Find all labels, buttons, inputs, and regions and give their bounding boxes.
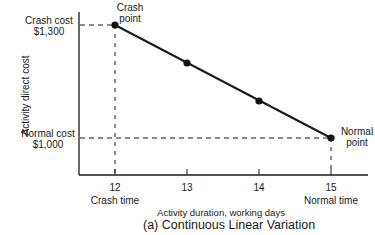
y-axis-label: Activity direct cost [20, 46, 31, 146]
normal-point-label: Normal point [340, 126, 374, 148]
normal-point-label-line2: point [340, 137, 374, 148]
crash-cost-label-line2: $1,300 [22, 26, 76, 37]
crash-point-label-line1: Crash [112, 2, 148, 13]
point-14 [255, 97, 262, 104]
chart-title: (a) Continuous Linear Variation [143, 218, 315, 232]
normal-time-label: Normal time [296, 195, 366, 206]
crash-point-label: Crash point [112, 2, 148, 24]
crash-cost-label-line1: Crash cost [22, 15, 76, 26]
x-axis-label: Activity duration, working days [146, 207, 296, 218]
x-tick-label-14: 14 [249, 182, 269, 193]
x-tick-label-13: 13 [177, 182, 197, 193]
x-tick-label-15: 15 [321, 182, 341, 193]
cost-line [115, 25, 331, 138]
normal-point-label-line1: Normal [340, 126, 374, 137]
crash-point-label-line2: point [112, 13, 148, 24]
crash-time-label: Crash time [85, 195, 145, 206]
x-tick-label-12: 12 [105, 182, 125, 193]
normal-point-marker [327, 134, 334, 141]
crash-cost-label: Crash cost $1,300 [22, 15, 76, 37]
point-13 [183, 59, 190, 66]
